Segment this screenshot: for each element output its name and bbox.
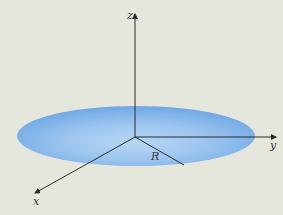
disk	[17, 106, 255, 166]
z-axis-label: z	[126, 9, 133, 22]
y-axis-label: y	[269, 139, 277, 152]
disk-diagram: z y x R	[0, 0, 283, 215]
diagram-canvas: z y x R	[0, 0, 283, 215]
radius-label: R	[150, 150, 159, 163]
x-axis-label: x	[33, 195, 40, 208]
